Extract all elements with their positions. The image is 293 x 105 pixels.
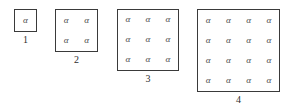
group-caption-2: 2 <box>55 55 98 65</box>
grid-cell: α <box>259 30 279 50</box>
alpha-symbol: α <box>226 56 231 65</box>
grid-cell: α <box>158 30 178 50</box>
grid-cell: α <box>138 30 158 50</box>
alpha-symbol: α <box>226 36 231 45</box>
grid-cell: α <box>259 71 279 91</box>
square-1x1: α <box>14 9 37 32</box>
grid-cell: α <box>118 10 138 30</box>
grid-cell: α <box>218 71 238 91</box>
alpha-symbol: α <box>246 76 251 85</box>
alpha-symbol: α <box>64 36 69 45</box>
alpha-symbol: α <box>226 16 231 25</box>
alpha-symbol: α <box>246 56 251 65</box>
alpha-symbol: α <box>166 55 171 64</box>
alpha-symbol: α <box>206 16 211 25</box>
alpha-symbol: α <box>166 35 171 44</box>
grid-cell: α <box>138 50 158 70</box>
alpha-symbol: α <box>84 36 89 45</box>
grid-cell: α <box>118 30 138 50</box>
square-2x2: α α α α <box>55 9 98 52</box>
grid-cell: α <box>198 71 218 91</box>
alpha-symbol: α <box>206 36 211 45</box>
grid-cell: α <box>15 10 36 31</box>
grid-cell: α <box>218 10 238 30</box>
grid-cell: α <box>158 50 178 70</box>
square-4x4: α α α α α α α α α α α α α α α α <box>197 9 280 92</box>
grid-cell: α <box>138 10 158 30</box>
alpha-symbol: α <box>246 16 251 25</box>
alpha-symbol: α <box>226 76 231 85</box>
grid-cell: α <box>198 51 218 71</box>
grid-cell: α <box>198 10 218 30</box>
grid-cell: α <box>218 30 238 50</box>
alpha-symbol: α <box>266 56 271 65</box>
group-caption-4: 4 <box>197 95 280 105</box>
grid-cell: α <box>259 51 279 71</box>
alpha-symbol: α <box>146 15 151 24</box>
alpha-symbol: α <box>126 55 131 64</box>
alpha-symbol: α <box>266 16 271 25</box>
group-caption-3: 3 <box>117 74 179 84</box>
grid-cell: α <box>259 10 279 30</box>
grid-cell: α <box>239 71 259 91</box>
grid-cell: α <box>118 50 138 70</box>
alpha-symbol: α <box>84 16 89 25</box>
alpha-symbol: α <box>126 15 131 24</box>
alpha-symbol: α <box>166 15 171 24</box>
grid-cell: α <box>56 10 77 31</box>
alpha-symbol: α <box>64 16 69 25</box>
alpha-symbol: α <box>146 35 151 44</box>
grid-cell: α <box>198 30 218 50</box>
grid-cell: α <box>158 10 178 30</box>
alpha-symbol: α <box>206 76 211 85</box>
alpha-symbol: α <box>206 56 211 65</box>
grid-cell: α <box>239 30 259 50</box>
grid-cell: α <box>239 51 259 71</box>
square-3x3: α α α α α α α α α <box>117 9 179 71</box>
group-caption-1: 1 <box>14 35 37 45</box>
grid-cell: α <box>239 10 259 30</box>
grid-cell: α <box>77 10 98 31</box>
grid-cell: α <box>218 51 238 71</box>
alpha-symbol: α <box>246 36 251 45</box>
grid-cell: α <box>77 31 98 52</box>
alpha-symbol: α <box>266 76 271 85</box>
alpha-symbol: α <box>23 16 28 25</box>
alpha-squares-figure: α 1 α α α α 2 α α α α α α α α α 3 α α α <box>0 0 293 105</box>
alpha-symbol: α <box>126 35 131 44</box>
grid-cell: α <box>56 31 77 52</box>
alpha-symbol: α <box>146 55 151 64</box>
alpha-symbol: α <box>266 36 271 45</box>
